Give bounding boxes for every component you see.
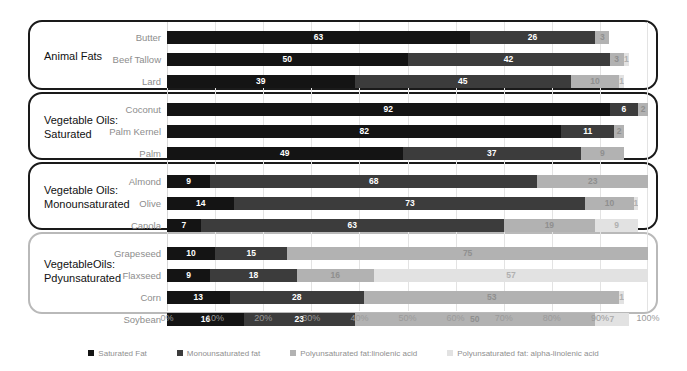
legend-item-label: Polyunsaturated fat:linolenic acid <box>300 349 417 358</box>
bar-row: Grapeseed101575 <box>167 247 648 260</box>
bar-segment: 9 <box>595 219 638 232</box>
bar-segment: 11 <box>561 125 614 138</box>
legend-item[interactable]: Monounsaturated fat <box>177 349 260 358</box>
bar-segment-value: 11 <box>583 125 592 138</box>
legend-item[interactable]: Polyunsaturated fat: alpha-linolenic aci… <box>447 349 598 358</box>
bar-segment: 26 <box>470 31 595 44</box>
legend-item[interactable]: Saturated Fat <box>88 349 146 358</box>
x-axis-tick: 30% <box>302 313 320 323</box>
bar-segment-value: 9 <box>600 147 605 160</box>
bar-segment-value: 16 <box>331 269 340 282</box>
bar-segment: 3 <box>610 53 624 66</box>
bar-segment-value: 57 <box>506 269 515 282</box>
bar-segment: 18 <box>210 269 297 282</box>
bar-segment-value: 10 <box>186 247 195 260</box>
x-axis-tick: 20% <box>254 313 272 323</box>
bar-segment-value: 45 <box>458 75 467 88</box>
bar-segment-value: 7 <box>181 219 186 232</box>
bar-segment: 37 <box>403 147 581 160</box>
bar-segment: 50 <box>167 53 408 66</box>
bar-segment: 1 <box>619 291 624 304</box>
x-axis-tick: 10% <box>206 313 224 323</box>
bar-segment-value: 63 <box>314 31 323 44</box>
bar-row: Lard3945101 <box>167 75 648 88</box>
legend-item-label: Polyunsaturated fat: alpha-linolenic aci… <box>457 349 598 358</box>
bar-row-label: Corn <box>11 291 161 304</box>
bar-segment-value: 23 <box>588 175 597 188</box>
legend-item[interactable]: Polyunsaturated fat:linolenic acid <box>290 349 417 358</box>
bar-segment: 13 <box>167 291 230 304</box>
bar-row: Coconut9262 <box>167 103 648 116</box>
bar-segment-value: 6 <box>622 103 627 116</box>
bar-segment: 9 <box>167 269 210 282</box>
bar-segment: 16 <box>297 269 374 282</box>
bar-segment-value: 1 <box>619 75 624 88</box>
bar-segment-value: 63 <box>347 219 356 232</box>
bar-row: Canola763199 <box>167 219 648 232</box>
bar-row-label: Grapeseed <box>11 247 161 260</box>
bar-segment: 42 <box>408 53 610 66</box>
bar-segment: 75 <box>287 247 648 260</box>
plot-area: Butter63263Beef Tallow504231Lard3945101C… <box>167 22 648 311</box>
bar-segment-value: 53 <box>487 291 496 304</box>
bar-segment: 28 <box>230 291 365 304</box>
x-axis: 0%10%20%30%40%50%60%70%80%90%100% <box>167 313 648 327</box>
bar-segment: 1 <box>624 53 629 66</box>
legend-swatch-icon <box>290 350 296 356</box>
bar-segment: 53 <box>364 291 619 304</box>
bar-segment: 10 <box>585 197 633 210</box>
legend-swatch-icon <box>177 350 183 356</box>
bar-segment: 92 <box>167 103 610 116</box>
bar-row-label: Flaxseed <box>11 269 161 282</box>
bar-segment-value: 13 <box>194 291 203 304</box>
bar-segment-value: 73 <box>405 197 414 210</box>
bar-segment: 49 <box>167 147 403 160</box>
fat-composition-chart: Animal Fats Vegetable Oils: Saturated Ve… <box>0 0 687 371</box>
bar-segment-value: 15 <box>246 247 255 260</box>
bar-row-label: Palm <box>11 147 161 160</box>
bar-segment-value: 3 <box>600 31 605 44</box>
bar-segment-value: 2 <box>641 103 646 116</box>
bar-segment-value: 39 <box>256 75 265 88</box>
bar-segment-value: 50 <box>283 53 292 66</box>
bar-row: Corn1328531 <box>167 291 648 304</box>
x-axis-tick: 50% <box>398 313 416 323</box>
chart-legend: Saturated FatMonounsaturated fatPolyunsa… <box>0 345 687 361</box>
bar-segment-value: 49 <box>280 147 289 160</box>
bar-segment-value: 82 <box>359 125 368 138</box>
bar-segment-value: 14 <box>196 197 205 210</box>
bar-segment: 68 <box>210 175 537 188</box>
x-axis-tick: 70% <box>495 313 513 323</box>
legend-swatch-icon <box>447 350 453 356</box>
bar-segment: 1 <box>634 197 639 210</box>
bar-row: Flaxseed9181657 <box>167 269 648 282</box>
bar-segment-value: 1 <box>619 291 624 304</box>
legend-swatch-icon <box>88 350 94 356</box>
bar-segment-value: 9 <box>186 175 191 188</box>
bar-row-label: Soybean <box>11 313 161 326</box>
bar-row: Palm49379 <box>167 147 648 160</box>
bar-segment-value: 26 <box>528 31 537 44</box>
bar-segment-value: 1 <box>634 197 639 210</box>
bar-segment: 23 <box>537 175 648 188</box>
bar-segment-value: 2 <box>617 125 622 138</box>
bar-segment-value: 10 <box>605 197 614 210</box>
legend-item-label: Monounsaturated fat <box>187 349 260 358</box>
bar-row: Almond96823 <box>167 175 648 188</box>
bar-segment-value: 18 <box>249 269 258 282</box>
bar-segment: 2 <box>614 125 624 138</box>
bar-row-label: Beef Tallow <box>11 53 161 66</box>
bar-segment: 14 <box>167 197 234 210</box>
bar-segment-value: 92 <box>384 103 393 116</box>
bar-segment-value: 10 <box>590 75 599 88</box>
bar-row: Beef Tallow504231 <box>167 53 648 66</box>
bar-segment-value: 37 <box>487 147 496 160</box>
bar-segment-value: 19 <box>545 219 554 232</box>
bar-segment-value: 42 <box>504 53 513 66</box>
bar-segment-value: 9 <box>186 269 191 282</box>
x-axis-tick: 90% <box>591 313 609 323</box>
bar-segment: 10 <box>167 247 215 260</box>
x-axis-tick: 60% <box>447 313 465 323</box>
bar-segment: 2 <box>638 103 648 116</box>
bar-segment-value: 3 <box>614 53 619 66</box>
